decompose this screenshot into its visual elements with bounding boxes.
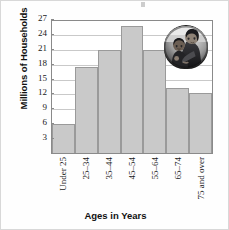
bar [98,50,121,153]
y-tick-label: 15 [21,73,47,83]
chart-figure: Millions of Households 369121518212427 [0,0,229,230]
y-tick-label: 21 [21,43,47,53]
x-tick-cell: 55–64 [144,155,167,207]
photo-woman-holding-child [164,25,208,69]
y-tick-label: 24 [21,28,47,38]
x-tick-label: 35–44 [104,157,114,180]
bar [189,93,212,153]
y-tick-mark [51,138,54,139]
x-tick-cell: 35–44 [97,155,120,207]
x-tick-cell: Under 25 [51,155,74,207]
bar [143,50,166,153]
y-tick-mark [51,93,54,94]
y-axis-tick-labels: 369121518212427 [19,20,47,154]
y-tick-mark [51,79,54,80]
x-tick-cell: 75 and over [190,155,213,207]
x-tick-label: 55–64 [150,157,160,180]
bar [75,67,98,153]
y-tick-label: 27 [21,13,47,23]
x-axis-title: Ages in Years [1,210,229,221]
y-tick-label: 9 [21,102,47,112]
y-tick-mark [51,34,54,35]
x-tick-cell: 65–74 [167,155,190,207]
y-tick-mark [51,108,54,109]
y-tick-mark [51,123,54,124]
x-tick-cell: 45–54 [120,155,143,207]
bar [121,26,144,153]
y-tick-mark [51,49,54,50]
y-tick-mark [51,64,54,65]
y-tick-label: 18 [21,58,47,68]
x-tick-label: Under 25 [58,157,68,191]
bar [166,88,189,153]
x-axis-tick-labels: Under 2525–3435–4445–5455–6465–7475 and … [51,155,213,207]
y-tick-label: 12 [21,87,47,97]
y-tick-label: 3 [21,132,47,142]
x-tick-cell: 25–34 [74,155,97,207]
x-tick-label: 75 and over [196,157,206,200]
y-tick-label: 6 [21,117,47,127]
top-artifact-mark [141,2,145,7]
bar [52,124,75,153]
x-tick-label: 45–54 [127,157,137,180]
x-tick-label: 25–34 [81,157,91,180]
x-tick-label: 65–74 [173,157,183,180]
y-tick-mark [51,19,54,20]
